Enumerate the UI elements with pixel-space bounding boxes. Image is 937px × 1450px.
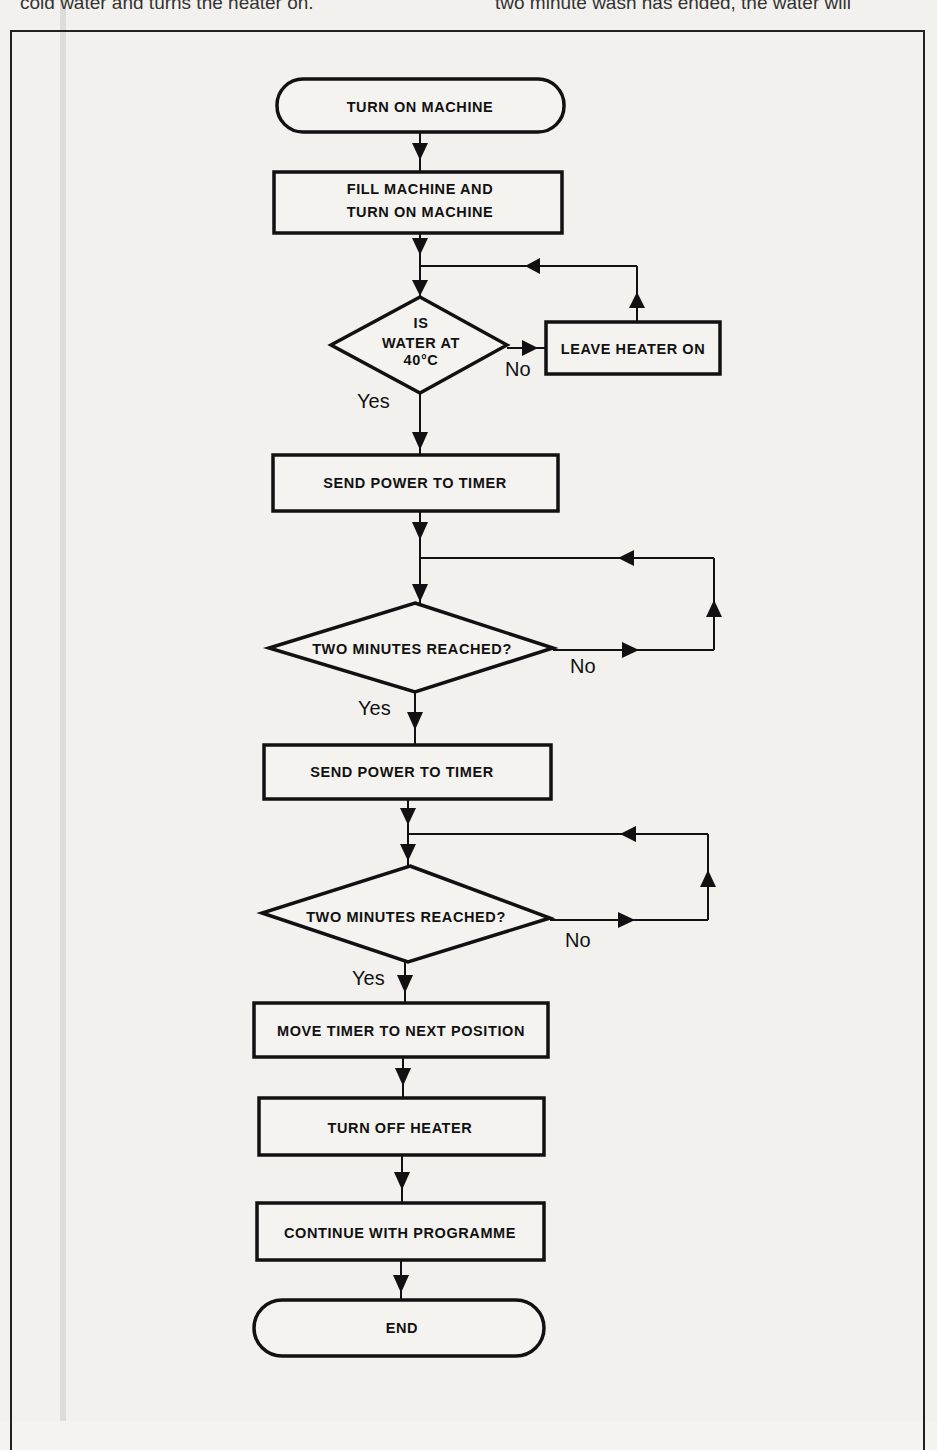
arrow-left-icon bbox=[525, 258, 540, 274]
node-fill-label-line1: FILL MACHINE AND bbox=[347, 181, 494, 197]
edge-label-two-min-1-yes: Yes bbox=[358, 697, 391, 719]
node-leave-heater-label: LEAVE HEATER ON bbox=[561, 341, 706, 357]
node-end: END bbox=[254, 1300, 544, 1356]
node-send-power-2-label: SEND POWER TO TIMER bbox=[310, 764, 494, 780]
node-end-label: END bbox=[386, 1320, 418, 1336]
arrow-down-icon bbox=[395, 1068, 411, 1086]
arrow-up-icon bbox=[706, 600, 722, 617]
decision-two-min-1-label: TWO MINUTES REACHED? bbox=[312, 641, 512, 657]
arrow-down-icon bbox=[412, 522, 428, 540]
arrow-left-icon bbox=[620, 826, 636, 842]
edge-label-temp-yes: Yes bbox=[357, 390, 390, 412]
node-continue-programme-label: CONTINUE WITH PROGRAMME bbox=[284, 1225, 516, 1241]
arrow-down-icon bbox=[397, 975, 413, 993]
node-start-label: TURN ON MACHINE bbox=[347, 99, 494, 115]
arrow-up-icon bbox=[700, 870, 716, 887]
node-turn-off-heater-label: TURN OFF HEATER bbox=[328, 1120, 473, 1136]
arrow-down-icon bbox=[393, 1275, 409, 1293]
arrow-up-icon bbox=[629, 292, 645, 308]
node-move-timer: MOVE TIMER TO NEXT POSITION bbox=[254, 1003, 548, 1057]
decision-temp-label-line1: IS bbox=[414, 315, 429, 331]
node-send-power-1: SEND POWER TO TIMER bbox=[273, 455, 558, 511]
decision-water-temp: IS WATER AT 40°C bbox=[331, 297, 507, 393]
node-start: TURN ON MACHINE bbox=[277, 79, 564, 132]
node-send-power-2: SEND POWER TO TIMER bbox=[264, 745, 551, 799]
node-leave-heater-on: LEAVE HEATER ON bbox=[546, 322, 720, 374]
arrow-down-icon bbox=[412, 280, 428, 296]
node-turn-off-heater: TURN OFF HEATER bbox=[259, 1098, 544, 1155]
arrow-down-icon bbox=[407, 712, 423, 730]
arrow-left-icon bbox=[618, 550, 634, 566]
node-fill-label-line2: TURN ON MACHINE bbox=[347, 204, 494, 220]
arrow-down-icon bbox=[394, 1172, 410, 1190]
node-move-timer-label: MOVE TIMER TO NEXT POSITION bbox=[277, 1023, 525, 1039]
decision-temp-label-line2: WATER AT bbox=[382, 335, 460, 351]
decision-temp-label-line3: 40°C bbox=[404, 352, 439, 368]
arrow-down-icon bbox=[400, 808, 416, 825]
arrow-right-icon bbox=[622, 642, 639, 658]
arrow-right-icon bbox=[618, 912, 635, 928]
node-fill-machine: FILL MACHINE AND TURN ON MACHINE bbox=[274, 172, 562, 233]
edge-label-two-min-2-no: No bbox=[565, 929, 591, 951]
decision-two-minutes-2: TWO MINUTES REACHED? bbox=[262, 866, 550, 962]
edge-label-temp-no: No bbox=[505, 358, 531, 380]
edge-label-two-min-2-yes: Yes bbox=[352, 967, 385, 989]
arrow-down-icon bbox=[400, 844, 416, 861]
arrow-down-icon bbox=[412, 238, 428, 255]
arrow-right-icon bbox=[522, 340, 538, 356]
decision-two-minutes-1: TWO MINUTES REACHED? bbox=[269, 603, 553, 692]
node-send-power-1-label: SEND POWER TO TIMER bbox=[323, 475, 507, 491]
node-continue-programme: CONTINUE WITH PROGRAMME bbox=[257, 1203, 544, 1260]
decision-two-min-2-label: TWO MINUTES REACHED? bbox=[306, 909, 506, 925]
arrow-down-icon bbox=[412, 584, 428, 602]
arrow-down-icon bbox=[412, 143, 428, 160]
arrow-down-icon bbox=[412, 432, 428, 450]
edge-label-two-min-1-no: No bbox=[570, 655, 596, 677]
